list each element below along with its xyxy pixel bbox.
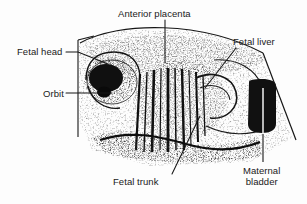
label-maternal-bladder: Maternalbladder [243,165,280,187]
label-orbit: Orbit [43,88,64,99]
label-fetal-trunk: Fetal trunk [113,176,158,187]
label-fetal-head: Fetal head [17,46,62,57]
orbit-shadow [97,87,111,98]
label-maternal-bladder-line1: Maternal [243,165,280,176]
label-maternal-bladder-line2: bladder [246,176,278,187]
label-fetal-liver: Fetal liver [233,36,275,47]
maternal-bladder-shape [248,79,276,133]
label-anterior-placenta: Anterior placenta [118,8,191,19]
